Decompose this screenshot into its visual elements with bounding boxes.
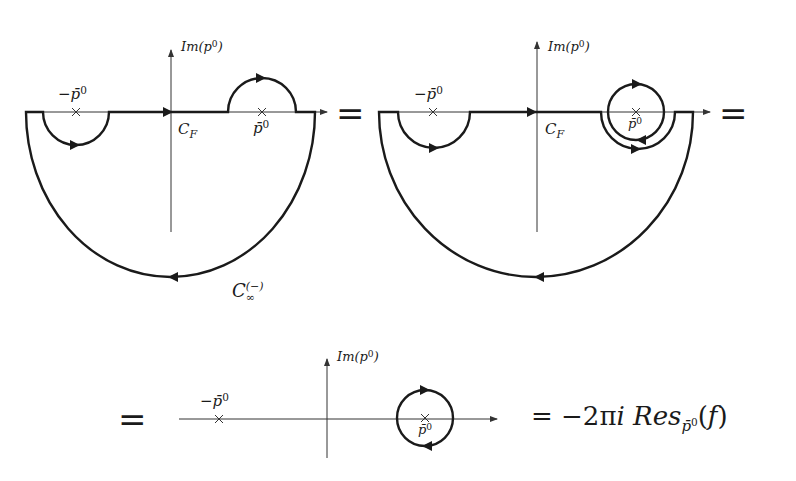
arrow-icon (527, 107, 537, 117)
neg-pole-label: −p̄0 (414, 85, 443, 102)
arrow-icon (429, 143, 439, 153)
neg-pole-label: −p̄0 (58, 85, 87, 102)
arrow-icon (534, 272, 544, 282)
pole-cross-icon (421, 414, 429, 422)
imag-axis-label: Im(p0) (337, 350, 379, 363)
arrow-icon (631, 144, 641, 154)
infinity-contour-label: C(−)∞ (232, 281, 264, 303)
arrow-icon (420, 385, 430, 395)
arrow-icon (632, 79, 642, 89)
pos-pole-label: p̄0 (418, 423, 432, 436)
feynman-contour-label: CF (545, 122, 564, 140)
arrow-icon (636, 135, 646, 145)
arrow-icon (70, 140, 80, 150)
arrow-icon (256, 73, 266, 83)
residue-result: = −2πi Resp̄0(f) (531, 403, 728, 434)
imag-axis-label: Im(p0) (548, 40, 590, 53)
panel-2 (379, 42, 710, 282)
pos-pole-label: p̄0 (253, 119, 269, 136)
imag-axis-label: Im(p0) (181, 40, 223, 53)
arrow-icon (168, 272, 178, 282)
equals-sign: = (719, 96, 748, 130)
feynman-contour-label: CF (178, 122, 197, 140)
equals-sign: = (118, 402, 147, 436)
contour-integral-figure: Im(p0) −p̄0 p̄0 CF C(−)∞ Im(p0) −p̄0 p̄0… (0, 0, 796, 481)
pos-pole-label: p̄0 (628, 117, 642, 130)
arrow-icon (422, 441, 432, 451)
equals-sign: = (336, 96, 365, 130)
neg-pole-label: −p̄0 (200, 392, 229, 409)
